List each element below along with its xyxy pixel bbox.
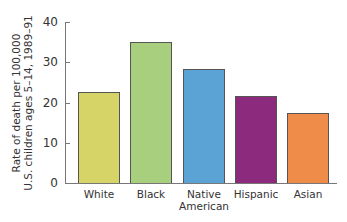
y-tick-label: 40 xyxy=(38,15,58,29)
x-tick-label-line: Hispanic xyxy=(226,188,286,200)
y-tick xyxy=(65,62,70,63)
bar-white xyxy=(78,92,120,183)
x-tick-label: NativeAmerican xyxy=(174,188,234,212)
x-tick-label-line: Native xyxy=(174,188,234,200)
x-tick-label-line: Asian xyxy=(278,188,338,200)
y-tick xyxy=(65,22,70,23)
x-tick-label: Hispanic xyxy=(226,188,286,200)
y-tick-label: 20 xyxy=(38,96,58,110)
bar-chart: Rate of death per 100,000 U.S. children … xyxy=(0,0,347,222)
x-tick-label-line: American xyxy=(174,200,234,212)
x-tick-label: Black xyxy=(121,188,181,200)
x-tick-label-line: White xyxy=(69,188,129,200)
y-axis-title: Rate of death per 100,000 U.S. children … xyxy=(10,15,34,191)
x-axis-line xyxy=(65,183,337,184)
y-tick xyxy=(65,103,70,104)
y-tick-label: 30 xyxy=(38,55,58,69)
y-tick xyxy=(65,143,70,144)
y-tick-label: 0 xyxy=(38,176,58,190)
bar-hispanic xyxy=(235,96,277,183)
bar-native-american xyxy=(183,69,225,183)
x-tick-label: Asian xyxy=(278,188,338,200)
y-tick xyxy=(65,183,70,184)
x-tick-label: White xyxy=(69,188,129,200)
bar-black xyxy=(130,42,172,183)
x-tick-label-line: Black xyxy=(121,188,181,200)
y-axis-title-line-2: U.S. children ages 5–14, 1989–91 xyxy=(22,15,34,191)
y-axis-title-line-1: Rate of death per 100,000 xyxy=(10,15,22,191)
bar-asian xyxy=(287,113,329,183)
y-tick-label: 10 xyxy=(38,136,58,150)
